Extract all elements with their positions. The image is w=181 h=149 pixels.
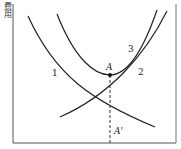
point-a-prime-label: A': [113, 126, 123, 136]
curve-1-label: 1: [52, 68, 58, 78]
point-a-label: A: [105, 62, 113, 72]
point-a-marker: [108, 73, 112, 77]
curve-2-label: 2: [138, 67, 144, 77]
curve-1: [28, 16, 155, 127]
curve-3-label: 3: [128, 44, 134, 54]
cost-diagram: A A' 1 2 3: [0, 0, 181, 149]
